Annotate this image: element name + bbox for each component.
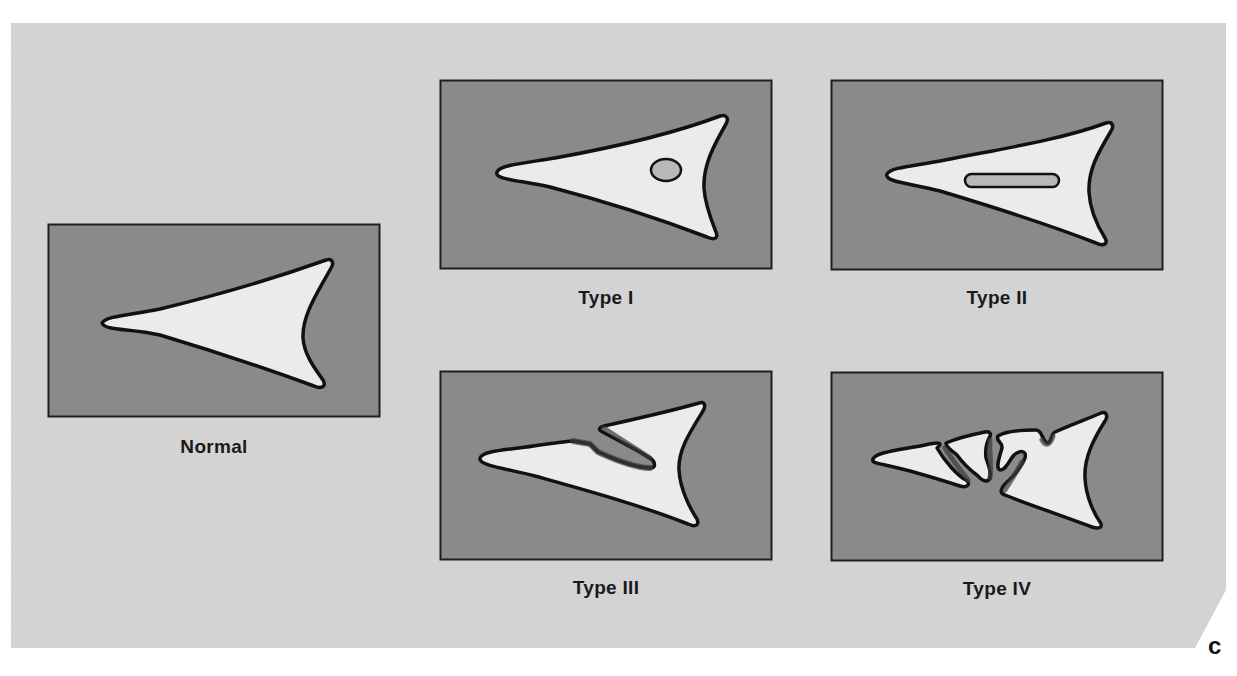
panel-type-2: [832, 81, 1163, 270]
label-type-4: Type IV: [897, 578, 1097, 600]
panel-normal: [49, 225, 380, 417]
figure-canvas: [0, 0, 1237, 676]
type-1-nucleus-inclusion: [651, 159, 681, 181]
label-type-1: Type I: [506, 287, 706, 309]
panel-letter: c: [1208, 632, 1221, 660]
label-type-2: Type II: [897, 287, 1097, 309]
panel-type-3: [441, 372, 772, 560]
panel-type-4: [832, 373, 1163, 561]
figure: Normal Type I Type II Type III Type IV c: [0, 0, 1237, 676]
type-2-elongated-inclusion: [965, 174, 1059, 187]
panel-type-1: [441, 81, 772, 269]
label-normal: Normal: [114, 436, 314, 458]
label-type-3: Type III: [506, 577, 706, 599]
